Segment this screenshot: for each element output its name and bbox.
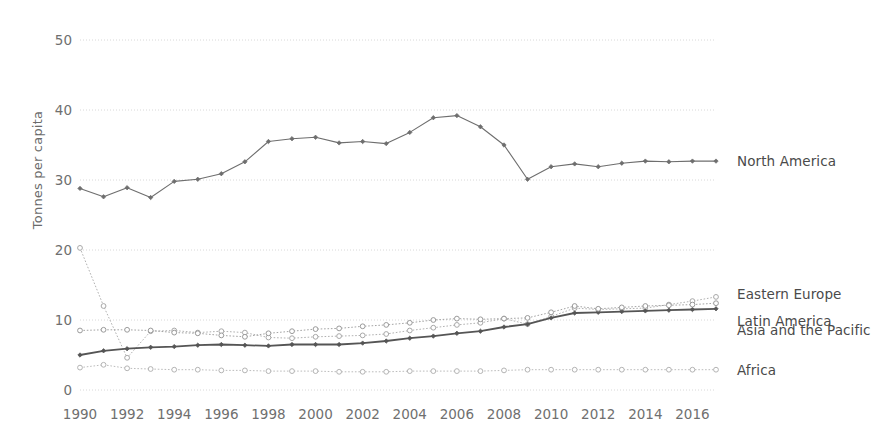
series-label: Eastern Europe [737,286,841,302]
series-label: North America [737,153,836,169]
series-label: Asia and the Pacific [737,322,871,338]
series-label: Africa [737,362,776,378]
chart-container: Tonnes per capita 01020304050 1990199219… [0,0,890,436]
series-label-layer: North AmericaEastern EuropeLatin America… [0,0,890,436]
